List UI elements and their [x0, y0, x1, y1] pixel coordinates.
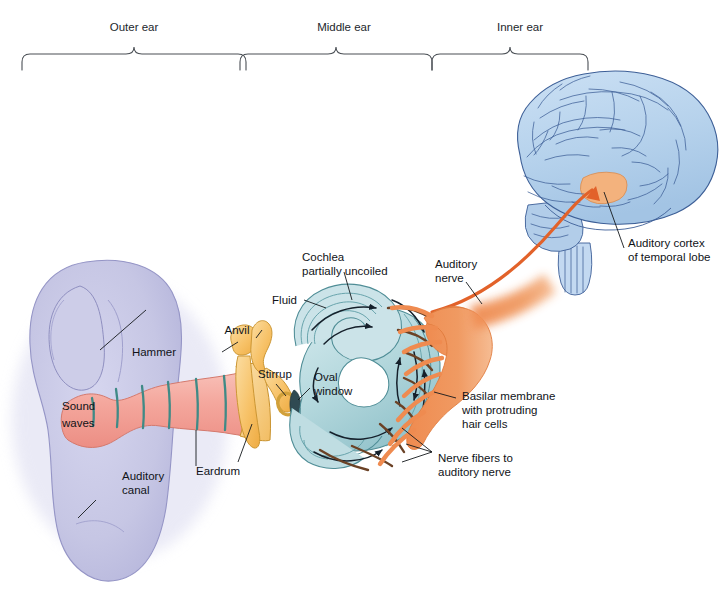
- label-fluid: Fluid: [272, 294, 297, 306]
- bracket-inner-ear: [432, 47, 588, 70]
- label-auditory-canal-line2: canal: [122, 484, 150, 496]
- label-basilar-line1: Basilar membrane: [462, 390, 555, 402]
- label-cortex-line1: Auditory cortex: [628, 237, 705, 249]
- label-basilar-line3: hair cells: [462, 418, 508, 430]
- nerve-tract-taper: [470, 274, 556, 330]
- label-auditory-nerve-line1: Auditory: [435, 258, 477, 270]
- leader-nerve-fibers-c: [402, 452, 432, 462]
- label-nerve-fibers-line2: auditory nerve: [438, 466, 511, 478]
- label-auditory-canal-line1: Auditory: [122, 470, 164, 482]
- diagram-canvas: Outer ear Middle ear Inner ear: [0, 0, 728, 606]
- label-sound-waves-line2: waves: [61, 417, 95, 429]
- label-oval-window-line1: Oval: [314, 371, 338, 383]
- bracket-middle-ear: [240, 47, 432, 70]
- bracket-outer-ear: [22, 47, 246, 70]
- label-hammer: Hammer: [132, 346, 176, 358]
- label-nerve-fibers-line1: Nerve fibers to: [438, 452, 513, 464]
- anvil: [251, 321, 272, 373]
- label-stirrup: Stirrup: [258, 368, 292, 380]
- label-cortex-line2: of temporal lobe: [628, 251, 710, 263]
- label-eardrum: Eardrum: [196, 465, 240, 477]
- label-auditory-nerve-line2: nerve: [435, 272, 464, 284]
- region-label-outer-ear: Outer ear: [110, 21, 159, 33]
- region-label-middle-ear: Middle ear: [317, 21, 371, 33]
- label-sound-waves-line1: Sound: [62, 400, 95, 412]
- label-cochlea-line1: Cochlea: [302, 251, 345, 263]
- label-anvil: Anvil: [225, 324, 250, 336]
- auditory-cortex-patch: [580, 172, 627, 204]
- label-oval-window-line2: window: [313, 385, 353, 397]
- label-basilar-line2: with protruding: [461, 404, 537, 416]
- region-brackets: [22, 47, 588, 70]
- ear-anatomy-figure: Outer ear Middle ear Inner ear: [0, 0, 728, 606]
- region-label-inner-ear: Inner ear: [497, 21, 543, 33]
- label-cochlea-line2: partially uncoiled: [302, 265, 388, 277]
